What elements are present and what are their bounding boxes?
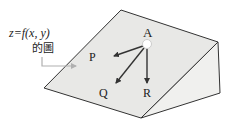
point-a-label: A [143, 25, 153, 40]
point-r-label: R [143, 86, 151, 100]
slope-diagram: A P Q R z=f(x, y) 的圖 [0, 0, 228, 126]
point-a-marker [143, 40, 152, 49]
point-q-label: Q [99, 86, 108, 100]
surface-label-caption: 的圖 [32, 41, 54, 54]
point-p-label: P [89, 50, 96, 64]
surface-label: z=f(x, y) [8, 26, 50, 40]
